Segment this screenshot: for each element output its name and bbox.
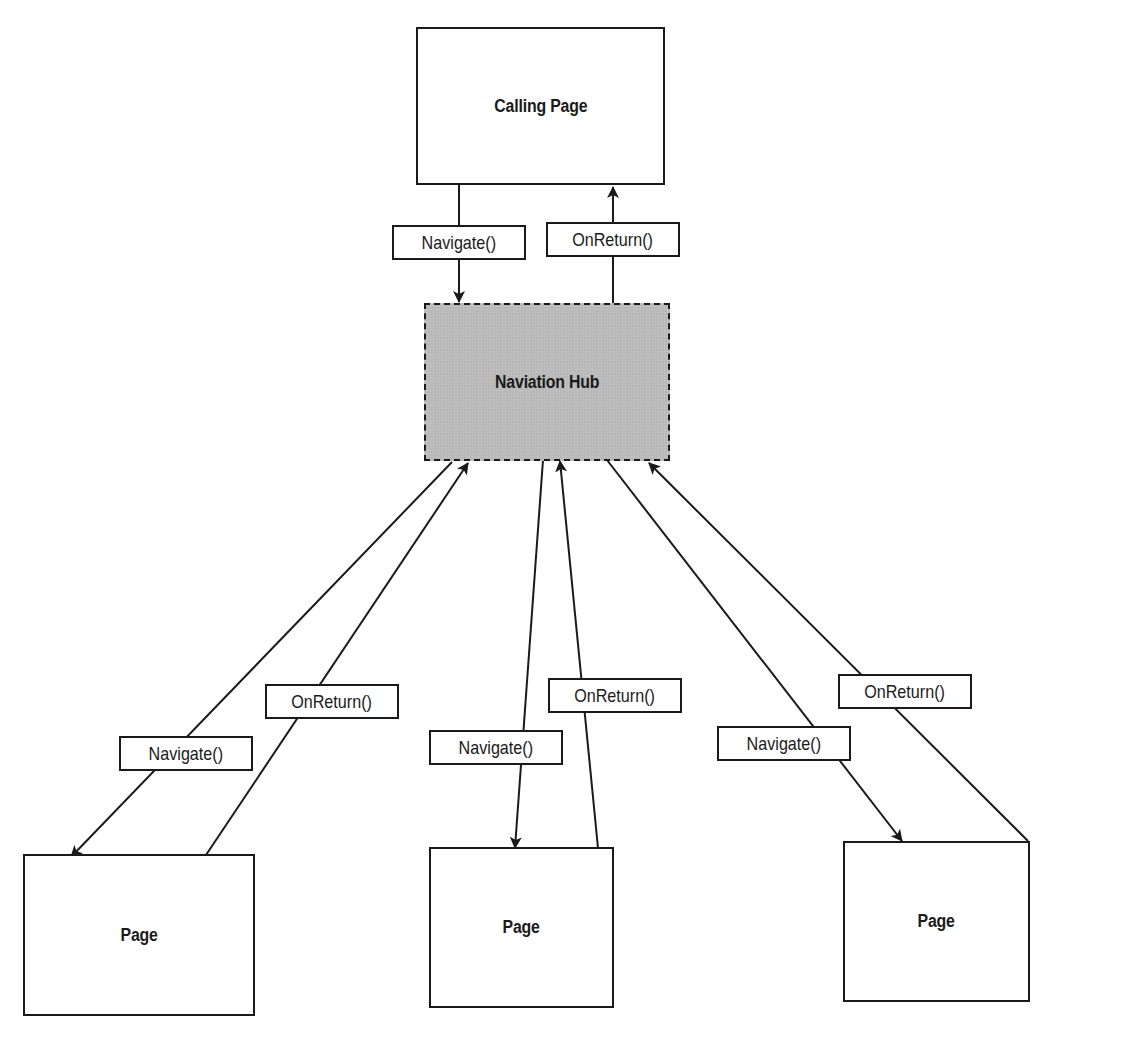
edge-hub-to-middle-page-navigate xyxy=(515,460,543,848)
page-middle-label: Page xyxy=(503,917,540,938)
edge-label-left-navigate: Navigate() xyxy=(119,736,253,771)
page-node-left: Page xyxy=(23,854,255,1016)
edge-label-right-navigate: Navigate() xyxy=(717,726,851,761)
edge-label-right-onreturn: OnReturn() xyxy=(838,674,972,709)
calling-page-label: Calling Page xyxy=(494,96,587,117)
calling-page-node: Calling Page xyxy=(416,27,665,185)
page-node-right: Page xyxy=(843,841,1030,1002)
edge-label-left-onreturn: OnReturn() xyxy=(265,684,399,719)
edge-label-middle-onreturn: OnReturn() xyxy=(548,678,682,713)
page-node-middle: Page xyxy=(429,847,614,1008)
edge-label-middle-navigate: Navigate() xyxy=(429,730,563,765)
page-left-label: Page xyxy=(120,925,157,946)
edge-hub-to-left-page-navigate xyxy=(71,462,452,857)
edge-label-calling-navigate: Navigate() xyxy=(392,225,526,260)
edge-hub-to-right-page-navigate xyxy=(607,460,902,841)
edge-middle-page-to-hub-onreturn xyxy=(560,461,598,848)
page-right-label: Page xyxy=(918,911,955,932)
edge-right-page-to-hub-onreturn xyxy=(649,463,1028,841)
navigation-hub-label: Naviation Hub xyxy=(495,372,599,393)
edge-left-page-to-hub-onreturn xyxy=(206,463,468,855)
navigation-hub-node: Naviation Hub xyxy=(424,303,670,461)
edge-label-calling-onreturn: OnReturn() xyxy=(546,222,680,257)
